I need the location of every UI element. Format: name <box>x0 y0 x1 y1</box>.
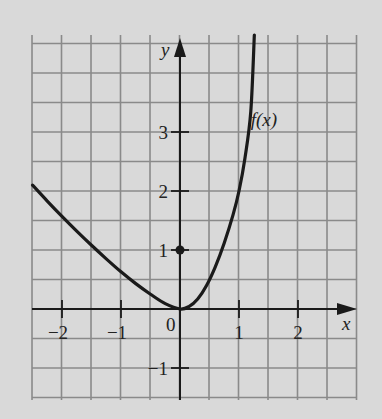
point-marker <box>176 246 185 255</box>
x-axis-label: x <box>341 313 351 334</box>
x-tick-label: −2 <box>48 322 68 343</box>
y-tick-label: 3 <box>159 122 169 143</box>
x-tick-label: 2 <box>293 322 303 343</box>
points <box>176 246 185 255</box>
x-tick-label: −1 <box>107 322 127 343</box>
function-graph: −2−112−1123 y x 0 f(x) <box>0 0 382 419</box>
y-axis-label: y <box>159 39 170 60</box>
y-tick-label: 1 <box>159 240 169 261</box>
curve-label: f(x) <box>251 109 277 131</box>
x-tick-label: 1 <box>234 322 244 343</box>
origin-label: 0 <box>166 314 176 335</box>
y-tick-label: 2 <box>159 181 169 202</box>
y-tick-label: −1 <box>148 358 168 379</box>
